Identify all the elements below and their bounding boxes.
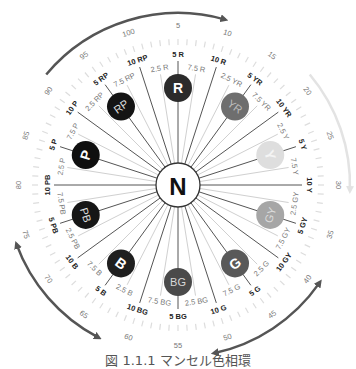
hue-label-minor: 7.5 P xyxy=(65,122,81,142)
tick-mark xyxy=(311,228,317,230)
hue-circle-yr: YR xyxy=(221,93,249,121)
hue-label-minor: 7.5 BG xyxy=(147,295,172,308)
tick-mark xyxy=(286,92,291,96)
spoke-minor xyxy=(67,167,156,181)
tick-mark xyxy=(72,281,76,285)
figure-caption: 図 1.1.1 マンセル色相環 xyxy=(0,350,356,369)
tick-mark xyxy=(78,287,82,291)
hue-number: 55 xyxy=(174,341,182,350)
tick-mark xyxy=(314,149,320,150)
spoke-minor xyxy=(200,188,289,202)
hue-number: 85 xyxy=(20,130,31,141)
hue-label-minor: 2.5 B xyxy=(115,282,135,298)
spoke-minor xyxy=(67,188,156,202)
tick-mark xyxy=(35,158,41,159)
tick-mark xyxy=(39,140,45,142)
tick-mark xyxy=(50,252,55,255)
hue-label-minor: 7.5 RP xyxy=(112,71,137,89)
hue-number: 35 xyxy=(325,229,336,240)
tick-mark xyxy=(260,298,264,303)
tick-mark xyxy=(85,73,89,78)
hue-label-boundary: 10 GY xyxy=(274,251,294,273)
tick-mark xyxy=(42,131,48,133)
tick-mark xyxy=(230,315,232,321)
hue-label-minor: 2.5 YR xyxy=(219,71,244,90)
tick-mark xyxy=(308,237,314,239)
hue-label-boundary: 10 YR xyxy=(274,97,294,120)
tick-mark xyxy=(305,245,310,248)
hue-number: 60 xyxy=(123,332,134,343)
hue-label-boundary: 10 G xyxy=(209,303,227,317)
hue-circle-p: P xyxy=(72,141,100,169)
hue-label-major: 5 Y xyxy=(297,138,309,151)
tick-mark xyxy=(301,252,306,255)
hue-label-boundary: 10 B xyxy=(64,253,81,272)
tick-mark xyxy=(66,274,71,278)
tick-mark xyxy=(311,140,317,142)
tick-mark xyxy=(60,267,65,271)
hue-label-major: 5 GY xyxy=(296,216,310,235)
tick-mark xyxy=(37,220,43,221)
hue-label-major: 5 P xyxy=(47,138,59,151)
hue-number: 75 xyxy=(20,229,31,240)
tick-mark xyxy=(100,303,103,308)
hue-label-minor: 7.5 Y xyxy=(289,157,301,176)
tick-mark xyxy=(316,211,322,212)
tick-mark xyxy=(221,46,223,52)
spoke-minor xyxy=(127,205,168,285)
neutral-label: N xyxy=(169,173,186,200)
tick-mark xyxy=(253,303,256,308)
tick-mark xyxy=(33,167,39,168)
tick-mark xyxy=(55,107,60,110)
hue-number: 5 xyxy=(176,21,180,30)
hue-circle-r: R xyxy=(164,74,192,102)
tick-mark xyxy=(160,40,161,46)
tick-mark xyxy=(245,308,248,313)
tick-mark xyxy=(316,158,322,159)
hue-label-major: 5 B xyxy=(94,284,109,298)
spoke-minor xyxy=(188,205,229,285)
tick-mark xyxy=(308,131,314,133)
tick-mark xyxy=(42,237,48,239)
tick-mark xyxy=(238,312,241,317)
hue-label-minor: 7.5 R xyxy=(187,63,207,75)
tick-mark xyxy=(314,220,320,221)
tick-mark xyxy=(151,323,152,329)
hue-circle-rp: RP xyxy=(107,93,135,121)
hue-label-major: 5 RP xyxy=(92,70,111,87)
tick-mark xyxy=(213,321,214,327)
hue-number: 10 xyxy=(222,27,233,38)
hue-label-minor: 2.5 GY xyxy=(288,191,301,215)
tick-mark xyxy=(160,324,161,330)
hue-label-minor: 7.5 GY xyxy=(274,226,293,251)
tick-mark xyxy=(291,267,296,271)
hue-label-boundary: 10 Y xyxy=(305,177,314,192)
hue-number: 30 xyxy=(334,181,343,189)
hue-circle-g: G xyxy=(221,249,249,277)
hue-number: 50 xyxy=(222,332,233,343)
hue-number: 95 xyxy=(78,49,90,61)
tick-mark xyxy=(108,57,111,62)
tick-mark xyxy=(213,44,214,50)
tick-mark xyxy=(60,99,65,103)
tick-mark xyxy=(55,260,60,263)
hue-number: 25 xyxy=(325,130,336,141)
tick-mark xyxy=(142,44,143,50)
hue-label-major: 5 PB xyxy=(47,216,61,235)
spoke-minor xyxy=(200,167,289,181)
hue-circle-label: R xyxy=(173,80,183,96)
tick-mark xyxy=(50,115,55,118)
tick-mark xyxy=(204,42,205,48)
tick-mark xyxy=(196,324,197,330)
hue-circle-pb: PB xyxy=(72,201,100,229)
neutral-center: N xyxy=(156,163,200,207)
hue-circle-b: B xyxy=(107,249,135,277)
hue-label-minor: 2.5 P xyxy=(56,157,68,176)
hue-label-major: 5 YR xyxy=(246,71,265,88)
hue-label-minor: 2.5 Y xyxy=(275,122,291,142)
tick-mark xyxy=(305,123,310,126)
hue-number: 90 xyxy=(42,85,54,97)
hue-number: 20 xyxy=(301,85,313,97)
hue-label-boundary: 10 PB xyxy=(43,174,52,195)
